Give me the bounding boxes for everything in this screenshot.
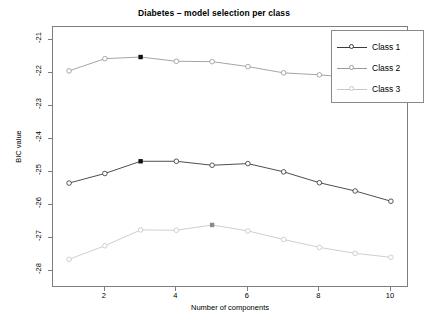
data-point bbox=[353, 189, 358, 194]
x-axis-title: Number of components bbox=[52, 303, 408, 312]
series-3 bbox=[67, 223, 393, 262]
data-point bbox=[317, 245, 322, 250]
legend-line-sample-icon bbox=[337, 41, 367, 53]
data-point bbox=[67, 69, 72, 74]
x-axis-tick-label: 8 bbox=[308, 291, 328, 300]
y-axis-tick bbox=[48, 39, 52, 40]
legend-line-sample-icon bbox=[337, 83, 367, 95]
data-point bbox=[174, 228, 179, 233]
x-axis-tick-label: 4 bbox=[165, 291, 185, 300]
y-axis-tick-label: -28 bbox=[34, 259, 43, 279]
y-axis-tick bbox=[48, 171, 52, 172]
legend-marker-circle-icon bbox=[349, 65, 354, 70]
legend-label: Class 2 bbox=[372, 63, 400, 73]
y-axis-tick-label: -27 bbox=[34, 226, 43, 246]
x-axis-tick-label: 6 bbox=[237, 291, 257, 300]
chart-legend: Class 1Class 2Class 3 bbox=[331, 30, 424, 103]
legend-item-3: Class 3 bbox=[332, 79, 425, 99]
data-point bbox=[174, 159, 179, 164]
data-point bbox=[210, 163, 215, 168]
legend-label: Class 3 bbox=[372, 84, 400, 94]
data-point bbox=[246, 161, 251, 166]
data-point bbox=[246, 64, 251, 69]
series-1 bbox=[67, 159, 393, 204]
y-axis-tick bbox=[48, 72, 52, 73]
y-axis-tick bbox=[48, 204, 52, 205]
y-axis-tick-label: -26 bbox=[34, 193, 43, 213]
legend-marker-circle-icon bbox=[349, 86, 354, 91]
y-axis-tick-label: -22 bbox=[34, 61, 43, 81]
y-axis-tick-label: -21 bbox=[34, 28, 43, 48]
data-point bbox=[389, 255, 394, 260]
legend-line-sample-icon bbox=[337, 62, 367, 74]
data-point bbox=[210, 59, 215, 64]
data-point bbox=[353, 251, 358, 256]
data-point bbox=[317, 180, 322, 185]
legend-item-2: Class 2 bbox=[332, 58, 425, 78]
data-point bbox=[281, 237, 286, 242]
data-point bbox=[67, 181, 72, 186]
y-axis-tick-label: -25 bbox=[34, 160, 43, 180]
data-point bbox=[103, 56, 108, 61]
y-axis-tick bbox=[48, 270, 52, 271]
x-axis-tick-label: 10 bbox=[380, 291, 400, 300]
y-axis-tick bbox=[48, 138, 52, 139]
data-point bbox=[281, 71, 286, 76]
data-point bbox=[174, 59, 179, 64]
chart-title: Diabetes – model selection per class bbox=[0, 8, 428, 18]
y-axis-tick bbox=[48, 105, 52, 106]
y-axis-tick-label: -24 bbox=[34, 127, 43, 147]
data-point-best bbox=[138, 55, 142, 59]
data-point bbox=[103, 171, 108, 176]
data-point-best bbox=[138, 159, 142, 163]
y-axis-tick-label: -23 bbox=[34, 94, 43, 114]
data-point bbox=[281, 170, 286, 175]
y-axis-tick bbox=[48, 237, 52, 238]
data-point-best bbox=[210, 223, 214, 227]
y-axis-title: BIC value bbox=[14, 107, 23, 187]
legend-item-1: Class 1 bbox=[332, 37, 425, 57]
x-axis-tick-label: 2 bbox=[94, 291, 114, 300]
data-point bbox=[317, 73, 322, 78]
data-point bbox=[67, 257, 72, 262]
chart-container: Diabetes – model selection per class 246… bbox=[0, 0, 428, 322]
data-point bbox=[389, 199, 394, 204]
data-point bbox=[138, 228, 143, 233]
legend-label: Class 1 bbox=[372, 42, 400, 52]
data-point bbox=[103, 243, 108, 248]
legend-marker-circle-icon bbox=[349, 44, 354, 49]
data-point bbox=[246, 229, 251, 234]
